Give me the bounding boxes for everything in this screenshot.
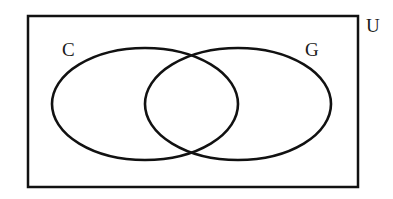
canvas-background bbox=[0, 0, 393, 199]
venn-diagram: C G U bbox=[0, 0, 393, 199]
set-c-label: C bbox=[62, 39, 75, 60]
universal-set-label: U bbox=[366, 15, 380, 36]
set-g-label: G bbox=[305, 39, 319, 60]
